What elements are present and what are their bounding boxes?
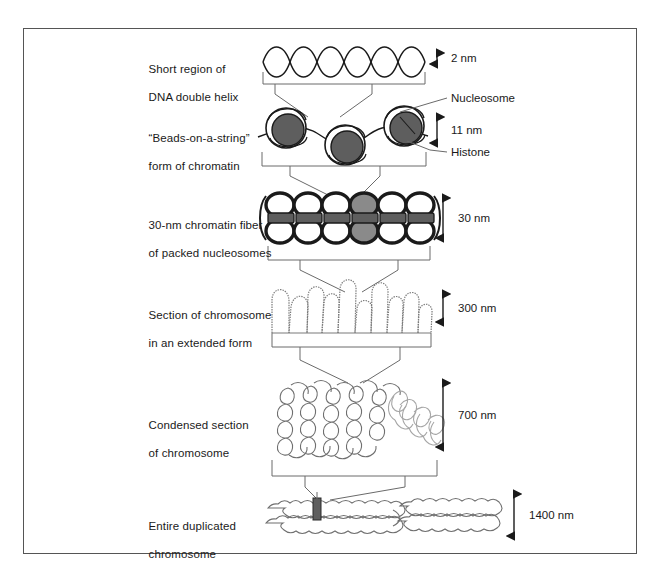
- level-label-condensed-chromosome: Condensed section of chromosome: [142, 404, 249, 460]
- connector-3-to-4-right: [362, 260, 398, 292]
- scale-label-11nm: 11 nm: [451, 123, 482, 137]
- connector-4-to-5-right: [363, 347, 400, 383]
- bracket-level3: [268, 246, 430, 260]
- connector-5-to-6-left: [305, 476, 318, 500]
- level-label-dna-double-helix: Short region of DNA double helix: [142, 48, 238, 104]
- chromatin-diagram-artwork: [0, 0, 657, 579]
- bracket-level4: [272, 333, 431, 347]
- bracket-level5: [272, 460, 437, 476]
- connector-5-to-6-right: [330, 476, 405, 500]
- scale-label-300nm: 300 nm: [458, 301, 496, 315]
- callout-nucleosome: Nucleosome: [451, 91, 515, 105]
- callout-histone: Histone: [451, 145, 490, 159]
- bracket-level1: [263, 72, 425, 84]
- scale-label-2nm: 2 nm: [451, 51, 477, 65]
- level-label-extended-chromosome: Section of chromosome in an extended for…: [142, 294, 272, 350]
- duplicated-chromosome-graphic: [266, 499, 502, 534]
- nucleosome-bead: [266, 108, 307, 148]
- extended-chromosome-graphic: [272, 280, 432, 333]
- nucleosome-bead: [384, 106, 425, 146]
- level-label-30nm-fiber: 30-nm chromatin fiber of packed nucleoso…: [142, 204, 272, 260]
- connector-3-to-4-left: [300, 260, 345, 292]
- centromere-band: [313, 498, 321, 520]
- connector-1-to-2-right: [340, 84, 372, 117]
- thirty-nm-fiber-graphic: [260, 193, 440, 243]
- nucleosome-bead: [325, 125, 366, 165]
- level-label-duplicated-chromosome: Entire duplicated chromosome: [142, 505, 236, 561]
- scale-label-30nm: 30 nm: [458, 211, 490, 225]
- dna-double-helix-graphic: [263, 47, 425, 77]
- condensed-chromosome-graphic: [277, 381, 444, 459]
- scale-label-1400nm: 1400 nm: [529, 508, 574, 522]
- level-label-beads-on-a-string: “Beads-on-a-string” form of chromatin: [142, 117, 250, 173]
- connector-4-to-5-left: [300, 347, 348, 383]
- scale-label-700nm: 700 nm: [458, 408, 496, 422]
- leader-nucleosome: [400, 98, 447, 112]
